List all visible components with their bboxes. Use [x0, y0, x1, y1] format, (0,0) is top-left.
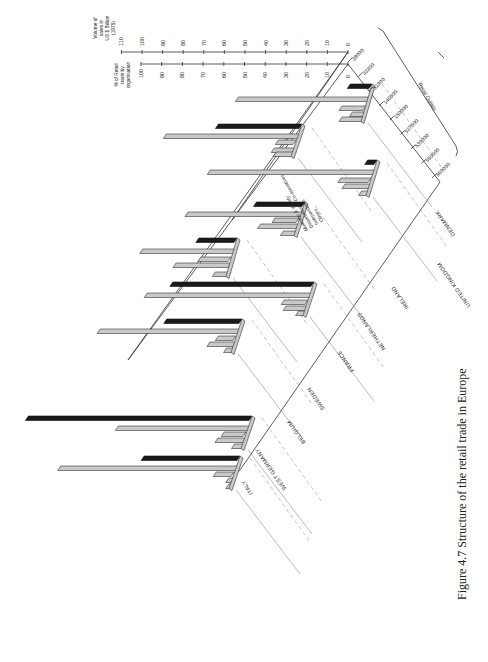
outlet-tick-label: 33300 — [361, 62, 376, 77]
country-bar-group — [97, 319, 245, 355]
percent-tick-label: 100 — [138, 69, 144, 78]
volume-tick-label: 40 — [263, 40, 269, 46]
figure-caption: Figure 4.7 Structure of the retail trade… — [455, 368, 469, 600]
svg-text:sales in: sales in — [99, 20, 104, 37]
percent-axis: 0102030405060708090100 % of Retail trade… — [114, 62, 351, 88]
svg-text:% of Retail: % of Retail — [114, 63, 119, 86]
svg-text:organisation: organisation — [126, 62, 131, 88]
multiples-bar — [342, 184, 371, 189]
volume-tick-label: 20 — [304, 40, 310, 46]
percent-tick-label: 50 — [242, 72, 248, 78]
department-bar — [339, 106, 366, 111]
volume-tick-label: 110 — [118, 37, 124, 46]
volume-tick-label: 10 — [324, 40, 330, 46]
independents-bar — [185, 212, 305, 217]
percent-tick-label: 40 — [262, 72, 268, 78]
independents-bar — [163, 134, 302, 139]
perspective-grid — [233, 84, 447, 574]
svg-text:trade by: trade by — [120, 66, 125, 84]
country-label: IRELAND — [390, 285, 410, 310]
department-bar — [213, 472, 234, 477]
country-bar-group — [140, 238, 240, 279]
country-label: SWEDEN — [306, 386, 326, 411]
volume-axis-title: Volume of sales in US $ Billion (1975) — [93, 15, 116, 40]
country-bar-group — [58, 456, 243, 491]
percent-tick-label: 70 — [200, 72, 206, 78]
volume-axis: 0102030405060708090100110 Volume of sale… — [93, 15, 351, 54]
country-label: ITALY — [240, 479, 254, 496]
volume-tick-label: 100 — [139, 37, 145, 46]
retail-outlets-title: Retail Outlets — [417, 82, 438, 112]
country-bar-group — [163, 124, 305, 159]
volume-bar — [196, 238, 237, 243]
department-bar — [215, 336, 236, 341]
country-bar-group — [25, 416, 255, 451]
outlet-tick-label: 960000 — [434, 161, 451, 178]
department-bar — [272, 218, 299, 223]
country-bar-group — [235, 84, 375, 124]
volume-tick-label: 80 — [180, 40, 186, 46]
country-bar-group — [144, 282, 317, 318]
outlet-tick-label: 550000 — [424, 147, 441, 164]
percent-tick-label: 10 — [324, 72, 330, 78]
volume-bar — [347, 84, 372, 89]
independents-bar — [97, 329, 242, 334]
multiples-bar — [258, 224, 299, 229]
percent-tick-label: 30 — [283, 72, 289, 78]
percent-tick-label: 0 — [345, 75, 351, 78]
volume-tick-label: 70 — [201, 40, 207, 46]
percent-tick-label: 90 — [159, 72, 165, 78]
volume-tick-label: 0 — [345, 43, 351, 46]
outlet-tick-label: 51900 — [371, 76, 386, 91]
svg-text:Volume of: Volume of — [93, 17, 98, 39]
independents-bar — [58, 466, 240, 471]
svg-text:US $ Billion: US $ Billion — [105, 15, 110, 40]
multiples-bar — [283, 306, 308, 311]
multiples-bar — [173, 263, 231, 268]
country-labels: DENMARKUNITED KINGDOMIRELANDNETHERLANDSF… — [240, 209, 471, 496]
retail-trade-chart: 0102030405060708090100110 Volume of sale… — [0, 0, 488, 662]
percent-axis-title: % of Retail trade by organisation — [114, 62, 131, 88]
volume-tick-label: 60 — [221, 40, 227, 46]
department-bar — [338, 178, 371, 183]
volume-bar — [164, 319, 242, 324]
independents-bar — [140, 249, 237, 254]
independents-bar — [207, 170, 377, 175]
volume-bar — [141, 456, 240, 461]
outlet-tick-label: 28000 — [350, 47, 365, 62]
country-label: UNITED KINGDOM — [436, 261, 472, 308]
percent-tick-label: 80 — [179, 72, 185, 78]
department-bar — [221, 432, 246, 437]
department-bar — [198, 257, 231, 262]
volume-tick-label: 90 — [160, 40, 166, 46]
volume-bar — [25, 416, 252, 421]
country-label: NETHERLANDS — [356, 311, 387, 351]
multiples-bar — [207, 342, 236, 347]
department-bar — [281, 300, 308, 305]
volume-tick-label: 50 — [242, 40, 248, 46]
independents-bar — [115, 426, 252, 431]
country-label: BELGIUM — [286, 419, 307, 445]
outlet-tick-label: 527000 — [403, 118, 420, 135]
country-label: WEST GERMANY — [254, 447, 287, 491]
volume-bar — [215, 124, 302, 129]
outlet-tick-label: 150000 — [392, 103, 409, 120]
outlet-tick-label: 530000 — [413, 132, 430, 149]
independents-bar — [144, 293, 314, 298]
volume-tick-label: 30 — [283, 40, 289, 46]
volume-bar — [170, 282, 314, 287]
percent-tick-label: 60 — [221, 72, 227, 78]
percent-tick-label: 20 — [304, 72, 310, 78]
independents-bar — [235, 97, 372, 102]
department-bar — [275, 140, 296, 145]
svg-text:(1975): (1975) — [111, 21, 116, 35]
bars — [25, 84, 380, 491]
country-label: FRANCE — [336, 349, 355, 373]
outlet-tick-label: 146000 — [382, 89, 399, 106]
multiples-bar — [215, 438, 246, 443]
volume-bar — [365, 160, 377, 165]
